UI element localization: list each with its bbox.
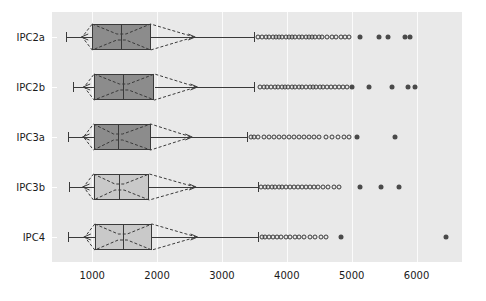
whisker-low-ipc3b xyxy=(69,187,94,188)
outlier-filled-ipc2b-1 xyxy=(366,85,371,90)
x-tick-label-6000: 6000 xyxy=(404,270,429,281)
y-tick-label-ipc3a: IPC3a xyxy=(2,132,45,143)
whisker-high-ipc3b xyxy=(149,187,258,188)
whisker-low-ipc2a xyxy=(66,37,92,38)
median-ipc2b xyxy=(123,74,124,100)
x-tick-label-5000: 5000 xyxy=(339,270,364,281)
outlier-open-ipc4-13 xyxy=(318,235,323,240)
outlier-filled-ipc4-0 xyxy=(339,235,344,240)
outlier-filled-ipc3a-0 xyxy=(354,135,359,140)
y-tick-mark-ipc4 xyxy=(52,237,57,238)
outlier-open-ipc3a-19 xyxy=(347,135,352,140)
outlier-open-ipc3a-16 xyxy=(330,135,335,140)
outlier-filled-ipc3b-2 xyxy=(397,185,402,190)
y-tick-mark-ipc2a xyxy=(52,37,57,38)
whisker-cap-high-ipc2b xyxy=(254,82,255,92)
outlier-open-ipc3a-2 xyxy=(256,135,261,140)
outlier-filled-ipc2b-4 xyxy=(412,85,417,90)
gridline-x-6000 xyxy=(417,12,418,262)
outlier-open-ipc4-14 xyxy=(324,235,329,240)
outlier-open-ipc2a-25 xyxy=(347,35,352,40)
y-tick-label-ipc2b: IPC2b xyxy=(2,82,45,93)
box-ipc3a xyxy=(94,124,151,150)
x-tick-label-1000: 1000 xyxy=(79,270,104,281)
y-tick-label-ipc4: IPC4 xyxy=(2,232,45,243)
outlier-open-ipc3a-14 xyxy=(317,135,322,140)
whisker-low-ipc4 xyxy=(68,237,95,238)
whisker-low-ipc2b xyxy=(73,87,94,88)
outlier-filled-ipc2b-0 xyxy=(350,85,355,90)
outlier-filled-ipc2b-3 xyxy=(406,85,411,90)
outlier-filled-ipc2a-1 xyxy=(376,35,381,40)
y-tick-label-ipc3b: IPC3b xyxy=(2,182,45,193)
outlier-filled-ipc2a-4 xyxy=(408,35,413,40)
gridline-x-5000 xyxy=(352,12,353,262)
whisker-high-ipc2b xyxy=(155,87,255,88)
boxplot-figure: 100020003000400050006000 IPC2aIPC2bIPC3a… xyxy=(0,0,486,301)
y-tick-label-ipc2a: IPC2a xyxy=(2,32,45,43)
outlier-filled-ipc3b-0 xyxy=(357,185,362,190)
whisker-cap-low-ipc4 xyxy=(68,232,69,242)
box-ipc3b xyxy=(94,174,150,200)
outlier-filled-ipc3a-1 xyxy=(392,135,397,140)
whisker-cap-low-ipc3a xyxy=(68,132,69,142)
median-ipc2a xyxy=(121,24,122,50)
outlier-open-ipc4-12 xyxy=(312,235,317,240)
median-ipc3a xyxy=(118,124,119,150)
whisker-low-ipc3a xyxy=(68,137,94,138)
whisker-high-ipc3a xyxy=(151,137,248,138)
y-tick-mark-ipc3b xyxy=(52,187,57,188)
outlier-filled-ipc3b-1 xyxy=(378,185,383,190)
outlier-filled-ipc4-1 xyxy=(443,235,448,240)
y-tick-mark-ipc2b xyxy=(52,87,57,88)
y-tick-mark-ipc3a xyxy=(52,137,57,138)
whisker-cap-low-ipc2a xyxy=(66,32,67,42)
median-ipc4 xyxy=(123,224,124,250)
x-tick-label-3000: 3000 xyxy=(209,270,234,281)
whisker-cap-low-ipc3b xyxy=(69,182,70,192)
outlier-open-ipc3b-19 xyxy=(336,185,341,190)
plot-area xyxy=(52,12,462,262)
whisker-high-ipc4 xyxy=(152,237,258,238)
x-tick-label-2000: 2000 xyxy=(144,270,169,281)
median-ipc3b xyxy=(119,174,120,200)
x-tick-label-4000: 4000 xyxy=(274,270,299,281)
whisker-high-ipc2a xyxy=(151,37,255,38)
whisker-cap-low-ipc2b xyxy=(73,82,74,92)
outlier-filled-ipc2b-2 xyxy=(389,85,394,90)
outlier-open-ipc2b-24 xyxy=(344,85,349,90)
outlier-filled-ipc2a-0 xyxy=(358,35,363,40)
outlier-open-ipc3a-15 xyxy=(323,135,328,140)
outlier-open-ipc3a-17 xyxy=(336,135,341,140)
outlier-filled-ipc2a-2 xyxy=(386,35,391,40)
